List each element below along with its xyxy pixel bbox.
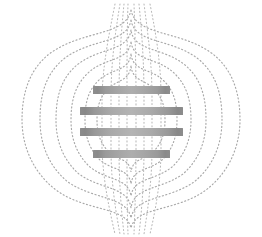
coil-bars-layer xyxy=(0,0,262,237)
coil-bar-2 xyxy=(80,107,183,115)
coil-bar-4 xyxy=(93,150,170,158)
coil-bar-1 xyxy=(93,86,170,94)
solenoid-field-diagram xyxy=(0,0,262,237)
coil-bar-3 xyxy=(80,128,183,136)
